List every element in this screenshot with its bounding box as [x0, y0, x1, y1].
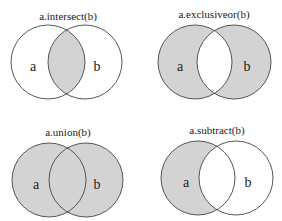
panel-subtract: a.subtract(b) a b — [161, 124, 273, 215]
label-a: a — [30, 59, 37, 74]
panel-title: a.union(b) — [45, 126, 91, 139]
panel-title: a.intersect(b) — [39, 10, 97, 23]
label-a: a — [183, 175, 190, 190]
label-a: a — [33, 177, 40, 192]
panel-exclusiveor: a.exclusiveor(b) a b — [158, 8, 271, 99]
label-b: b — [244, 59, 251, 74]
panel-union: a.union(b) a b — [12, 126, 123, 217]
panel-title: a.exclusiveor(b) — [178, 8, 249, 21]
label-a: a — [177, 59, 184, 74]
panel-intersect: a.intersect(b) a b — [11, 10, 122, 99]
venn-diagram-set-operations: a.intersect(b) a b a.exclusiveor(b) a b … — [0, 0, 282, 221]
label-b: b — [94, 177, 101, 192]
panel-title: a.subtract(b) — [189, 124, 245, 137]
label-b: b — [94, 59, 101, 74]
label-b: b — [245, 175, 252, 190]
